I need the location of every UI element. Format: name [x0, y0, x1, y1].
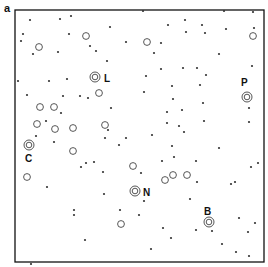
point-stars: [17, 10, 259, 265]
star-label-c: C: [25, 153, 32, 164]
star-dot: [48, 80, 50, 82]
star-dot: [183, 131, 185, 133]
star-dot: [26, 94, 28, 96]
star-dot: [166, 111, 168, 113]
star-dot: [143, 91, 145, 93]
star-ring: [70, 125, 77, 132]
star-dot: [110, 107, 112, 109]
star-dot: [66, 78, 68, 80]
star-ring: [144, 39, 151, 46]
star-label-l: L: [104, 73, 110, 84]
star-dot: [211, 230, 213, 232]
star-ring: [51, 104, 58, 111]
star-label-b: B: [204, 206, 211, 217]
star-dot: [57, 51, 59, 53]
star-ring: [184, 172, 191, 179]
star-dot: [248, 121, 250, 123]
star-dot: [205, 74, 207, 76]
star-ring: [83, 33, 90, 40]
star-dot: [184, 19, 186, 21]
star-dot: [106, 60, 108, 62]
star-dot: [22, 33, 24, 35]
star-dot: [182, 67, 184, 69]
star-dot: [102, 171, 104, 173]
star-dot: [202, 102, 204, 104]
star-dot: [253, 27, 255, 29]
star-ring: [130, 163, 137, 170]
star-dot: [201, 24, 203, 26]
star-dot: [95, 50, 97, 52]
star-dot: [203, 120, 205, 122]
star-dot: [178, 125, 180, 127]
star-dot: [160, 42, 162, 44]
double-ring-inner: [26, 142, 32, 148]
star-dot: [196, 181, 198, 183]
star-dot: [46, 186, 48, 188]
star-dot: [29, 19, 31, 21]
star-ring: [24, 174, 31, 181]
star-dot: [80, 166, 82, 168]
star-dot: [225, 28, 227, 30]
star-ring: [70, 148, 77, 155]
star-dot: [73, 209, 75, 211]
star-ring: [96, 90, 103, 97]
star-dot: [189, 198, 191, 200]
star-ring: [36, 44, 43, 51]
double-ring-inner: [244, 94, 250, 100]
star-dot: [62, 95, 64, 97]
star-dot: [254, 222, 256, 224]
star-dot: [45, 120, 47, 122]
star-dot: [138, 214, 140, 216]
star-dot: [32, 53, 34, 55]
star-dot: [153, 52, 155, 54]
star-dot: [103, 193, 105, 195]
star-dot: [85, 162, 87, 164]
star-dot: [118, 144, 120, 146]
star-dot: [87, 97, 89, 99]
star-dot: [125, 41, 127, 43]
star-dot: [17, 80, 19, 82]
double-ring-inner: [206, 219, 212, 225]
star-dot: [251, 65, 253, 67]
star-dot: [60, 112, 62, 114]
star-dot: [218, 53, 220, 55]
star-dot: [93, 161, 95, 163]
labeled-stars: LPCNB: [24, 72, 252, 227]
star-dot: [150, 248, 152, 250]
star-dot: [195, 229, 197, 231]
star-dot: [89, 45, 91, 47]
star-dot: [104, 137, 106, 139]
star-dot: [221, 243, 223, 245]
star-dot: [160, 68, 162, 70]
star-dot: [181, 109, 183, 111]
star-dot: [35, 135, 37, 137]
star-dot: [257, 162, 259, 164]
star-dot: [73, 214, 75, 216]
star-dot: [162, 227, 164, 229]
star-ring: [37, 104, 44, 111]
star-dot: [20, 40, 22, 42]
star-label-p: P: [241, 77, 248, 88]
star-dot: [171, 85, 173, 87]
star-dot: [185, 31, 187, 33]
star-dot: [230, 183, 232, 185]
star-dot: [143, 200, 145, 202]
star-dot: [199, 84, 201, 86]
double-ring-outer: [242, 92, 252, 102]
star-dot: [247, 231, 249, 233]
star-ring: [250, 33, 257, 40]
star-dot: [30, 263, 32, 265]
star-field-diagram: LPCNB: [0, 0, 268, 267]
star-label-n: N: [143, 187, 150, 198]
star-dot: [79, 95, 81, 97]
frame-border: [15, 10, 264, 262]
star-dot: [109, 26, 111, 28]
double-ring-outer: [204, 217, 214, 227]
star-dot: [171, 145, 173, 147]
star-dot: [70, 15, 72, 17]
star-ring: [170, 172, 177, 179]
star-dot: [84, 239, 86, 241]
star-dot: [204, 32, 206, 34]
star-dot: [248, 107, 250, 109]
star-dot: [166, 122, 168, 124]
